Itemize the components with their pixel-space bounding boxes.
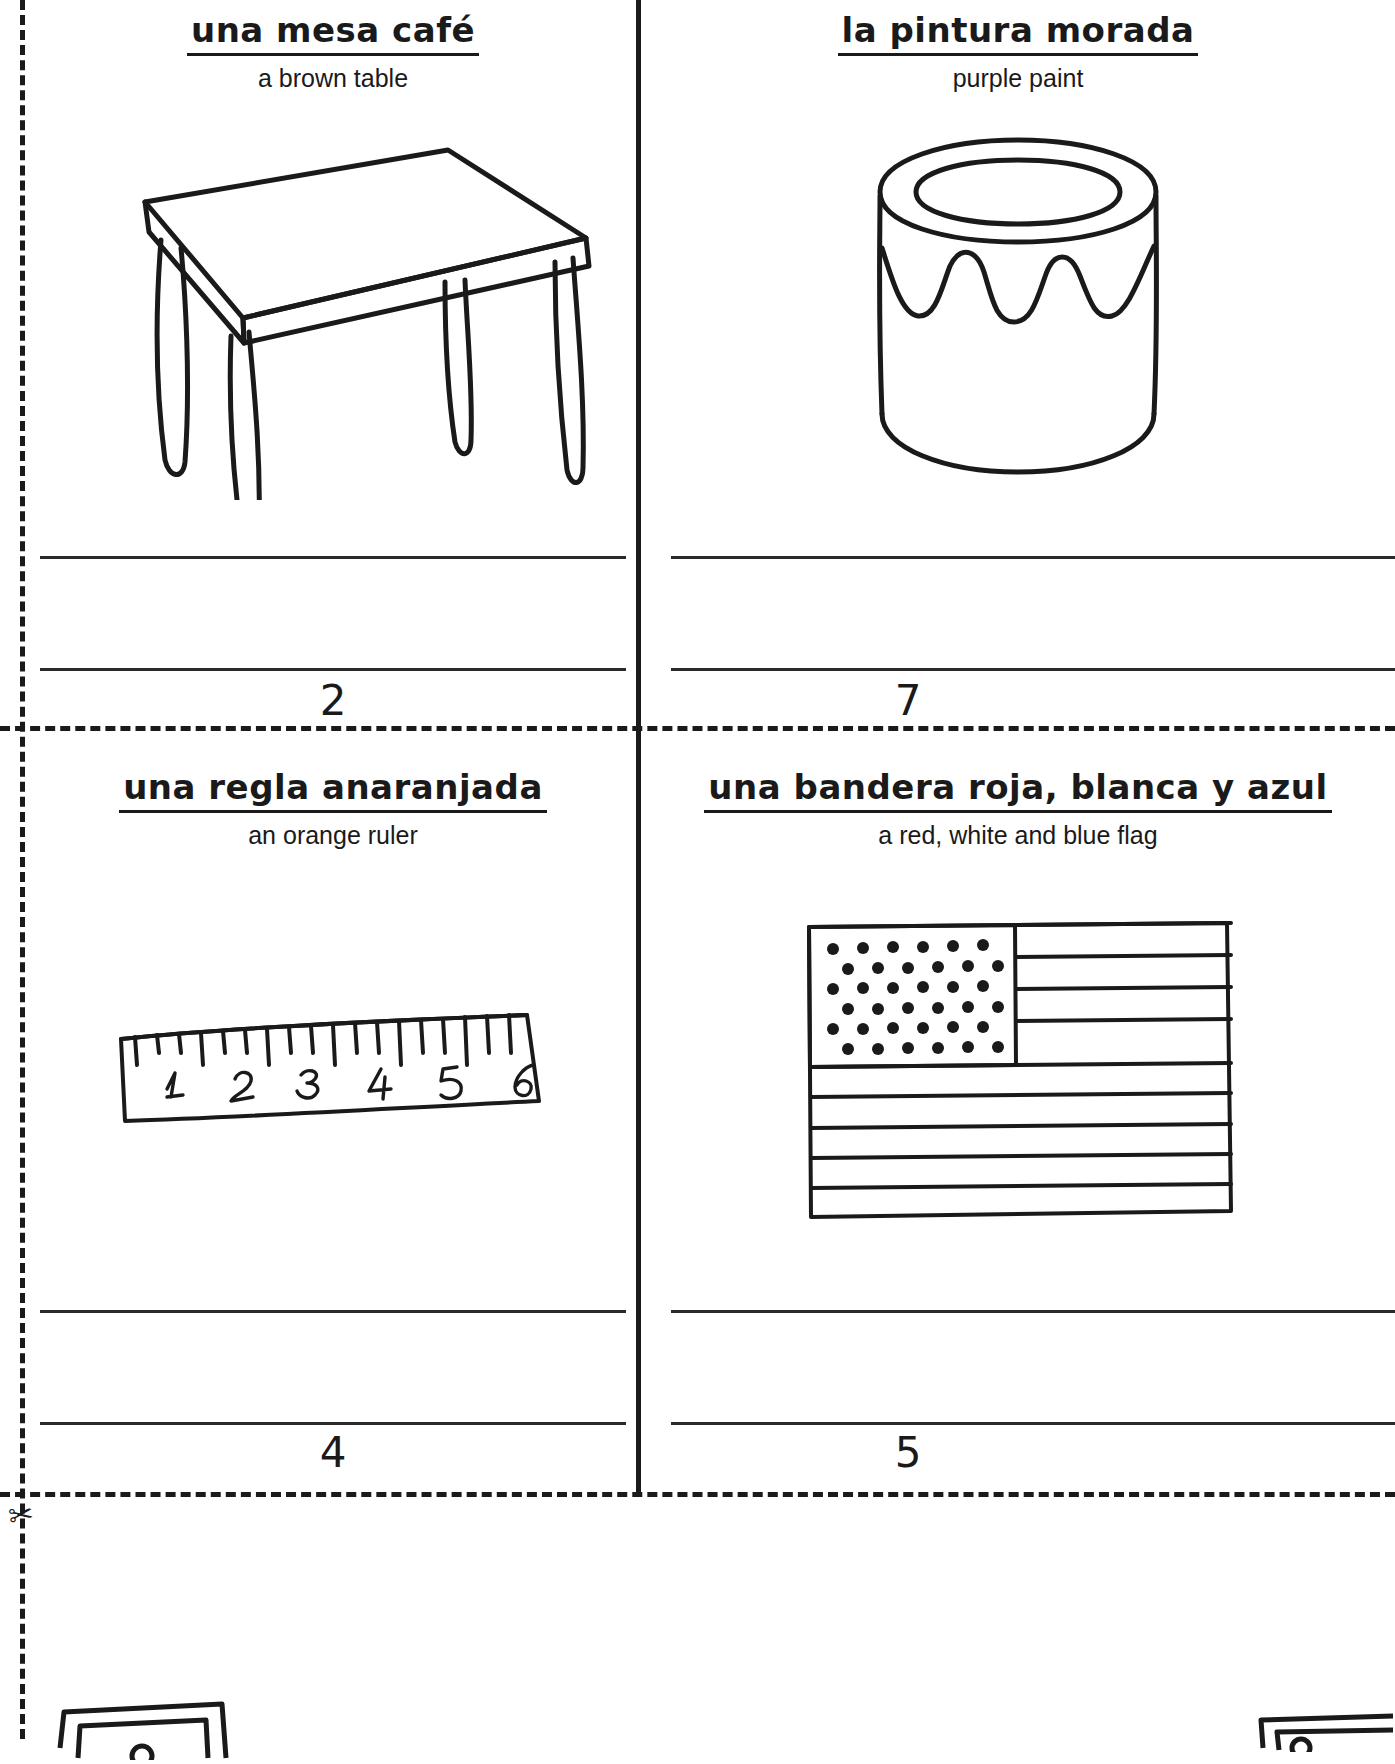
spanish-term: una mesa café (187, 10, 479, 56)
writing-line (671, 1422, 1395, 1425)
writing-line (671, 1310, 1395, 1313)
spanish-term: la pintura morada (838, 10, 1199, 56)
scissors-icon: ✂ (6, 1498, 35, 1531)
flag-illustration (641, 852, 1395, 1292)
writing-line (40, 1422, 626, 1425)
english-translation: a red, white and blue flag (641, 819, 1395, 852)
card-heading: una regla anaranjada an orange ruler (30, 731, 636, 852)
english-translation: an orange ruler (30, 819, 636, 852)
writing-area[interactable]: 7 (641, 546, 1395, 726)
table-illustration (30, 95, 636, 546)
writing-line (40, 668, 626, 671)
writing-line (40, 1310, 626, 1313)
card-number: 5 (531, 1428, 1285, 1477)
english-translation: a brown table (30, 62, 636, 95)
paint-can-illustration (641, 95, 1395, 546)
cut-line-horizontal-bottom (0, 1492, 1395, 1497)
spanish-term: una bandera roja, blanca y azul (704, 767, 1331, 813)
flashcard-mesa[interactable]: una mesa café a brown table 2 (30, 0, 636, 726)
english-translation: purple paint (641, 62, 1395, 95)
flashcard-bandera[interactable]: una bandera roja, blanca y azul a red, w… (641, 731, 1395, 1492)
flashcard-regla[interactable]: una regla anaranjada an orange ruler 4 (30, 731, 636, 1492)
spanish-term: una regla anaranjada (119, 767, 547, 813)
writing-line (40, 556, 626, 559)
card-number: 7 (531, 676, 1285, 725)
flashcard-pintura[interactable]: la pintura morada purple paint 7 (641, 0, 1395, 726)
partial-card-illustration-right (1255, 1712, 1395, 1756)
card-heading: una mesa café a brown table (30, 0, 636, 95)
cut-line-vertical-left (20, 0, 25, 1739)
card-heading: la pintura morada purple paint (641, 0, 1395, 95)
writing-line (671, 668, 1395, 671)
writing-line (671, 556, 1395, 559)
card-heading: una bandera roja, blanca y azul a red, w… (641, 731, 1395, 852)
writing-area[interactable]: 5 (641, 1292, 1395, 1492)
partial-card-illustration-left (50, 1700, 250, 1764)
ruler-illustration (30, 852, 636, 1292)
